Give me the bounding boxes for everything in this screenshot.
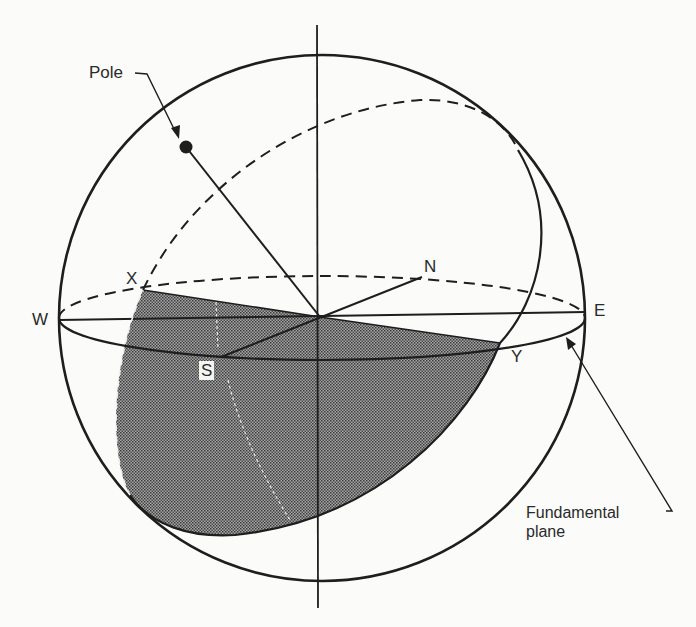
vertical-axis [317,25,318,608]
shaded-region [116,290,500,535]
label-fundamental-plane-line2: plane [526,522,565,541]
label-fundamental-plane-line1: Fundamental [526,503,619,522]
label-north: N [424,258,436,275]
label-y: Y [511,348,522,365]
label-pole: Pole [89,64,123,81]
fundamental-plane-leader-line [571,345,672,511]
label-west: W [32,311,48,328]
pole-axis-line [186,147,320,317]
label-x: X [126,270,137,287]
great-circle-back-arc [143,100,518,290]
pole-dot [180,141,193,154]
label-east: E [594,302,605,319]
fundamental-plane-arrowhead-icon [566,337,576,350]
label-south: S [199,361,214,380]
celestial-sphere-diagram [0,0,696,627]
